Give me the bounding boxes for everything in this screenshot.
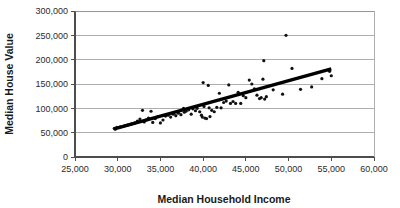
data-point bbox=[190, 113, 193, 116]
data-point bbox=[208, 106, 211, 109]
data-point bbox=[244, 96, 247, 99]
x-tick-label: 35,000 bbox=[147, 164, 175, 174]
data-point bbox=[261, 78, 264, 81]
data-point bbox=[149, 110, 152, 113]
y-tick-label: 50,000 bbox=[40, 128, 68, 138]
y-tick-label: 200,000 bbox=[35, 55, 68, 65]
data-point bbox=[207, 84, 210, 87]
data-point bbox=[218, 92, 221, 95]
data-point bbox=[227, 83, 230, 86]
data-point bbox=[159, 121, 162, 124]
data-point bbox=[272, 88, 275, 91]
data-point bbox=[202, 81, 205, 84]
data-point bbox=[229, 102, 232, 105]
x-tick-label: 25,000 bbox=[61, 164, 89, 174]
x-tick-label: 50,000 bbox=[275, 164, 303, 174]
data-point bbox=[161, 118, 164, 121]
x-tick-label: 30,000 bbox=[104, 164, 132, 174]
x-tick-label: 40,000 bbox=[189, 164, 217, 174]
x-tick-label: 55,000 bbox=[318, 164, 346, 174]
data-point bbox=[215, 106, 218, 109]
chart-canvas: 25,00030,00035,00040,00045,00050,00055,0… bbox=[0, 0, 400, 208]
data-point bbox=[248, 79, 251, 82]
y-tick-labels: 050,000100,000150,000200,000250,000300,0… bbox=[35, 6, 68, 162]
data-point bbox=[330, 74, 333, 77]
data-point bbox=[255, 94, 258, 97]
data-point bbox=[239, 102, 242, 105]
axes-group bbox=[71, 11, 374, 161]
x-tick-label: 45,000 bbox=[232, 164, 260, 174]
data-point bbox=[151, 121, 154, 124]
x-tick-labels: 25,00030,00035,00040,00045,00050,00055,0… bbox=[61, 164, 388, 174]
data-point bbox=[141, 109, 144, 112]
data-point bbox=[281, 93, 284, 96]
trendline bbox=[114, 69, 331, 129]
data-point bbox=[310, 85, 313, 88]
data-point bbox=[208, 115, 211, 118]
data-point bbox=[250, 82, 253, 85]
data-point bbox=[284, 34, 287, 37]
scatter-chart: 25,00030,00035,00040,00045,00050,00055,0… bbox=[0, 0, 400, 208]
data-point bbox=[265, 95, 268, 98]
x-tick-label: 60,000 bbox=[360, 164, 388, 174]
data-point bbox=[320, 77, 323, 80]
x-axis-title: Median Household Income bbox=[157, 193, 290, 205]
data-point bbox=[198, 110, 201, 113]
y-tick-label: 0 bbox=[63, 152, 68, 162]
data-point bbox=[213, 110, 216, 113]
data-points-group bbox=[113, 34, 333, 131]
data-point bbox=[262, 59, 265, 62]
y-axis-title: Median House Value bbox=[3, 33, 15, 135]
data-point bbox=[299, 88, 302, 91]
data-point bbox=[234, 102, 237, 105]
trendline-segment bbox=[114, 69, 331, 129]
y-tick-label: 100,000 bbox=[35, 104, 68, 114]
data-point bbox=[260, 96, 263, 99]
y-tick-label: 300,000 bbox=[35, 6, 68, 16]
y-tick-label: 250,000 bbox=[35, 31, 68, 41]
data-point bbox=[169, 115, 172, 118]
data-point bbox=[205, 117, 208, 120]
data-point bbox=[174, 114, 177, 117]
data-point bbox=[290, 67, 293, 70]
data-point bbox=[219, 106, 222, 109]
y-tick-label: 150,000 bbox=[35, 79, 68, 89]
data-point bbox=[179, 113, 182, 116]
data-point bbox=[231, 100, 234, 103]
